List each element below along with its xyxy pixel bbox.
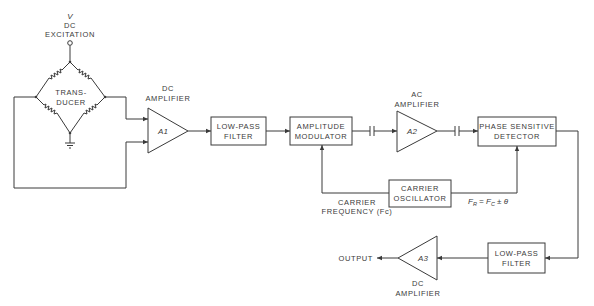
- psd-line1: PHASE SENSITIVE: [479, 122, 555, 131]
- a2-label: A2: [406, 127, 417, 136]
- a2-triangle-icon: [397, 111, 437, 152]
- a1-caption1: DC: [162, 84, 174, 93]
- a1-caption2: AMPLIFIER: [146, 94, 191, 103]
- lpf1-line1: LOW-PASS: [217, 122, 261, 131]
- a2-caption1: AC: [411, 90, 423, 99]
- oscillator-line1: CARRIER: [401, 184, 439, 193]
- ground-icon: [65, 133, 75, 148]
- a3-label: A3: [417, 254, 428, 263]
- excitation-line1: DC: [64, 21, 76, 30]
- a1-label: A1: [157, 127, 168, 136]
- oscillator-line2: OSCILLATOR: [394, 194, 447, 203]
- dc-amplifier-a1: DC AMPLIFIER A1: [146, 84, 191, 153]
- transducer-line1: TRANS-: [55, 88, 87, 97]
- lpf2-line2: FILTER: [502, 259, 531, 268]
- modulator-line2: MODULATOR: [295, 132, 348, 141]
- excitation-terminal-icon: [68, 41, 73, 46]
- low-pass-filter-2: LOW-PASS FILTER: [488, 243, 545, 273]
- dc-amplifier-a3: A3 DC AMPLIFIER: [396, 236, 441, 298]
- a1-triangle-icon: [148, 108, 188, 153]
- lpf1-line2: FILTER: [224, 132, 253, 141]
- carrier-to-modulator: [322, 145, 389, 193]
- ac-amplifier-a2: AC AMPLIFIER A2: [395, 90, 440, 152]
- amplitude-modulator: AMPLITUDE MODULATOR: [290, 117, 352, 145]
- capacitor-icon: [370, 126, 374, 136]
- block-diagram: V DC EXCITATION TRANS- DUCER DC A: [0, 0, 594, 306]
- excitation-line2: EXCITATION: [45, 30, 95, 39]
- carrier-frequency-line1: CARRIER: [338, 198, 376, 207]
- carrier-to-psd: [451, 146, 517, 193]
- a3-caption1: DC: [412, 279, 424, 288]
- bridge-to-a1-minus: [14, 97, 148, 188]
- psd-to-lpf2: [545, 131, 578, 258]
- excitation-symbol: V: [67, 12, 73, 21]
- a3-caption2: AMPLIFIER: [396, 289, 441, 298]
- psd-line2: DETECTOR: [494, 132, 540, 141]
- lpf2-line1: LOW-PASS: [495, 249, 539, 258]
- bridge-to-a1-plus: [105, 97, 148, 119]
- transducer-line2: DUCER: [56, 98, 86, 107]
- capacitor-icon: [455, 126, 459, 136]
- phase-formula: FR = FC ± θ: [468, 197, 509, 207]
- transducer-bridge: TRANS- DUCER: [35, 61, 107, 148]
- output-label: OUTPUT: [339, 254, 373, 263]
- low-pass-filter-1: LOW-PASS FILTER: [211, 117, 266, 145]
- carrier-oscillator: CARRIER OSCILLATOR: [389, 180, 451, 207]
- a2-caption2: AMPLIFIER: [395, 100, 440, 109]
- modulator-line1: AMPLITUDE: [297, 122, 345, 131]
- phase-sensitive-detector: PHASE SENSITIVE DETECTOR: [478, 117, 556, 146]
- dc-excitation: V DC EXCITATION: [45, 12, 95, 62]
- carrier-frequency-line2: FREQUENCY (Fc): [322, 207, 393, 216]
